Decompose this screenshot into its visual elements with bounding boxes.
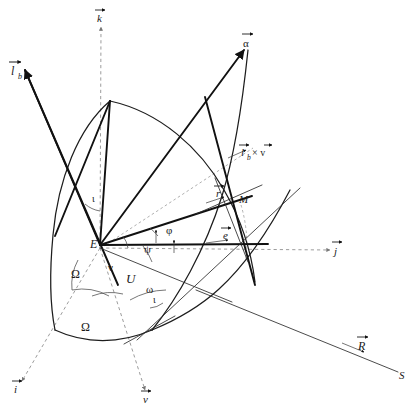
arc-iota-node (150, 303, 163, 308)
label-vector-R: R (357, 337, 368, 353)
axis-nu-line (100, 248, 145, 390)
vector-e-text: e (223, 229, 228, 241)
label-vector-lbxv: l b × v (239, 145, 272, 162)
angle-label-omega: ω (146, 283, 153, 295)
ray-E-to-M (100, 196, 252, 245)
orbital-great-circle-outer (152, 50, 248, 330)
label-vector-i: i (12, 381, 22, 395)
label-vector-lb: l b (9, 62, 22, 81)
node-arc-Omega (55, 330, 152, 341)
angle-label-phi: φ (166, 224, 172, 236)
vector-nu-text: v (143, 393, 148, 405)
vector-lbxv-text: l (241, 146, 244, 158)
arc-inner-small (123, 236, 128, 248)
arc-nu (72, 289, 109, 296)
vector-k-text: k (97, 12, 103, 24)
angle-label-iota-top: ι (92, 193, 95, 204)
point-label-E: E (89, 237, 98, 251)
angle-label-Omega-arc: Ω (81, 320, 90, 334)
vector-j-text: j (332, 245, 337, 257)
equator-arc-right (110, 101, 255, 282)
angle-label-Omega-inner: Ω (71, 267, 80, 281)
vector-geometry-figure: k i j v l b (0, 0, 420, 412)
point-label-S: S (399, 369, 405, 381)
vector-lbxv-suffix: × v (252, 147, 265, 158)
vector-r-text: r (216, 187, 221, 199)
ray-alpha (100, 50, 244, 245)
angle-label-psi: ψ (144, 243, 151, 255)
arc-iota-top (85, 204, 100, 211)
vector-i-text: i (14, 383, 17, 395)
vector-lb-text: l (11, 64, 15, 78)
axis-k-line (100, 27, 101, 248)
equatorial-arc-lower (152, 190, 290, 330)
ray-E-to-e (100, 244, 268, 245)
axis-j-line (100, 248, 330, 250)
vector-R-text: R (357, 339, 366, 353)
point-label-M: M (238, 193, 249, 205)
arc-phi (150, 228, 158, 236)
figure-labels: k i j v l b (9, 10, 405, 405)
label-vector-e: e (221, 228, 231, 241)
vector-lb-subscript: b (18, 72, 22, 81)
vector-lbxv-subscript: b (247, 153, 251, 162)
ray-node-short (124, 316, 175, 344)
label-vector-k: k (95, 10, 105, 24)
angle-label-nu: ν (108, 261, 113, 273)
label-vector-nu: v (141, 391, 151, 405)
ray-E-lower-right (100, 248, 232, 302)
ray-node-tangent (137, 188, 300, 340)
axis-i-line (22, 248, 100, 381)
ray-R-to-S (196, 290, 398, 372)
angle-label-U: U (126, 271, 137, 286)
label-vector-j: j (332, 242, 342, 257)
diagram-canvas: k i j v l b (0, 0, 420, 412)
angle-label-iota-node: ι (153, 294, 156, 305)
orbit-arc-left (51, 101, 110, 330)
small-vector-arrows (156, 150, 364, 352)
vector-alpha-text: α (243, 37, 249, 49)
great-circle-arcs (51, 50, 290, 341)
label-vector-alpha: α (242, 34, 253, 49)
